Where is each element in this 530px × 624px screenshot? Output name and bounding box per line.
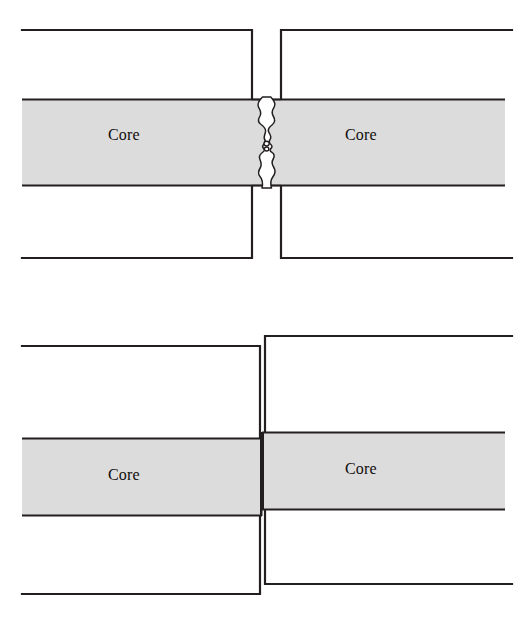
core-label-left-bottom: Core	[108, 466, 140, 484]
panel-axial-offset: Core Core	[0, 312, 530, 624]
panel-air-gap: Core Core	[0, 0, 530, 312]
core-label-right-top: Core	[345, 126, 377, 144]
right-fiber-cladding-bottom-2	[265, 510, 512, 584]
right-fiber-cladding-top	[281, 30, 512, 99]
left-fiber-cladding-bottom	[22, 186, 252, 258]
right-fiber-cladding-bottom	[281, 186, 512, 258]
right-fiber-cladding-top-2	[265, 336, 512, 432]
left-core-band-2	[22, 438, 262, 516]
right-core-band-2	[262, 432, 505, 510]
fiber-splice-figure: Core Core	[0, 0, 530, 624]
left-fiber-cladding-top	[22, 30, 252, 99]
left-fiber-cladding-bottom-2	[22, 516, 260, 594]
core-label-left-top: Core	[108, 126, 140, 144]
axial-offset-drawing	[0, 312, 530, 624]
air-gap-pinch-bead	[264, 141, 269, 151]
left-fiber-cladding-top-2	[22, 346, 260, 438]
core-label-right-bottom: Core	[345, 460, 377, 478]
air-gap-drawing	[0, 0, 530, 312]
right-core-band	[281, 99, 505, 186]
